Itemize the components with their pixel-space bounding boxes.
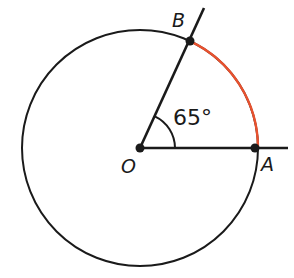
angle-value-label: 65°: [173, 105, 212, 130]
point-dot-o: [136, 144, 145, 153]
point-dot-b: [186, 37, 195, 46]
point-dot-a: [251, 144, 260, 153]
highlighted-arc-ab: [190, 41, 258, 148]
geometry-figure: 65° O A B: [0, 0, 294, 278]
angle-arc-marker: [155, 116, 175, 148]
point-label-a: A: [259, 153, 274, 175]
geometry-canvas: 65° O A B: [0, 0, 294, 278]
point-label-b: B: [172, 9, 185, 31]
point-label-o: O: [121, 155, 136, 177]
